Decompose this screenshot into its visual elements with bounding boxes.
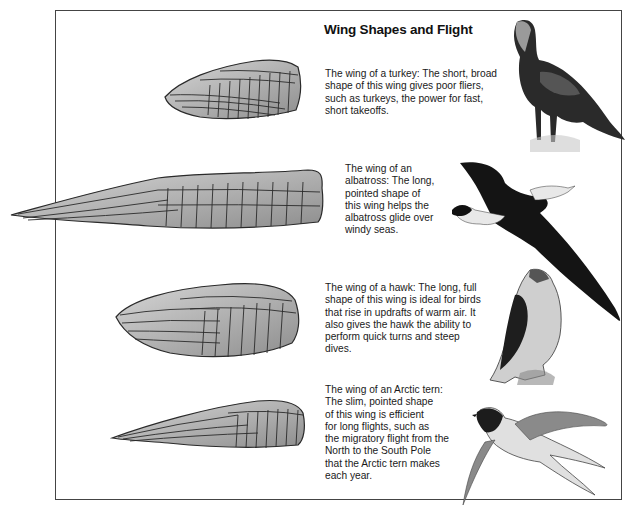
caption-line: The slim, pointed shape (325, 396, 465, 408)
albatross-caption: The wing of an albatross: The long, poin… (345, 163, 460, 237)
caption-line: also gives the hawk the ability to (325, 319, 495, 331)
caption-line: dives. (325, 343, 495, 355)
albatross-wing-icon (8, 160, 328, 235)
turkey-wing-icon (160, 55, 305, 125)
caption-line: The wing of a turkey: The short, broad (325, 68, 505, 80)
caption-line: albatross: The long, (345, 175, 460, 187)
caption-line: for long flights, such as (325, 421, 465, 433)
caption-line: shape of this wing is ideal for birds (325, 294, 495, 306)
caption-line: such as turkeys, the power for fast, (325, 93, 505, 105)
hawk-wing-icon (110, 275, 305, 365)
caption-line: albatross glide over (345, 212, 460, 224)
caption-line: of this wing is efficient (325, 409, 465, 421)
caption-line: that rise in updrafts of warm air. It (325, 307, 495, 319)
caption-line: perform quick turns and steep (325, 331, 495, 343)
hawk-icon (485, 265, 570, 385)
turkey-icon (495, 12, 625, 157)
caption-line: this wing helps the (345, 200, 460, 212)
diagram-title: Wing Shapes and Flight (324, 22, 472, 37)
caption-line: the migratory flight from the (325, 433, 465, 445)
arctic-tern-wing-icon (108, 395, 308, 455)
caption-line: North to the South Pole (325, 445, 465, 457)
caption-line: each year. (325, 470, 465, 482)
turkey-caption: The wing of a turkey: The short, broad s… (325, 68, 505, 117)
caption-line: that the Arctic tern makes (325, 458, 465, 470)
caption-line: shape of this wing gives poor fliers, (325, 80, 505, 92)
caption-line: short takeoffs. (325, 105, 505, 117)
hawk-caption: The wing of a hawk: The long, full shape… (325, 282, 495, 356)
caption-line: The wing of an (345, 163, 460, 175)
caption-line: The wing of an Arctic tern: (325, 384, 465, 396)
caption-line: The wing of a hawk: The long, full (325, 282, 495, 294)
arctic-tern-caption: The wing of an Arctic tern: The slim, po… (325, 384, 465, 482)
caption-line: pointed shape of (345, 188, 460, 200)
caption-line: windy seas. (345, 224, 460, 236)
arctic-tern-icon (455, 400, 615, 510)
